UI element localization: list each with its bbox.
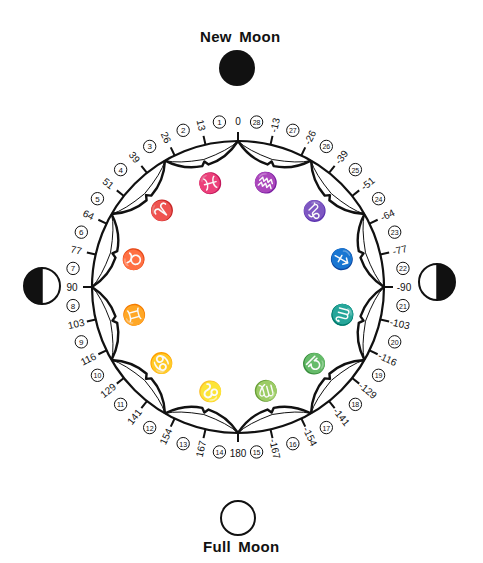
day-number: 15 bbox=[253, 449, 261, 456]
day-number: 11 bbox=[117, 401, 124, 408]
degree-label: -64 bbox=[379, 207, 397, 223]
lunar-day-marker: 19 bbox=[372, 369, 384, 381]
day-number: 4 bbox=[118, 166, 123, 175]
tick-mark bbox=[141, 166, 147, 173]
lunar-day-marker: 7 bbox=[67, 262, 79, 274]
lunar-day-marker: 9 bbox=[75, 336, 87, 348]
day-number: 1 bbox=[217, 118, 222, 127]
zodiac-libra-icon: ♎ bbox=[297, 346, 332, 381]
zodiac-ring bbox=[92, 141, 384, 433]
degree-label: -141 bbox=[331, 406, 352, 429]
lunar-day-marker: 28 bbox=[250, 116, 262, 128]
day-number: 18 bbox=[351, 401, 359, 408]
lunar-day-marker: 3 bbox=[143, 140, 155, 152]
tick-mark bbox=[117, 378, 124, 384]
zodiac-leo-icon: ♌ bbox=[195, 376, 225, 406]
zodiac-cancer-icon: ♋ bbox=[144, 346, 179, 381]
zodiac-sagittarius-icon: ♐ bbox=[327, 244, 357, 274]
day-number: 9 bbox=[79, 338, 84, 347]
tick-mark bbox=[329, 166, 335, 173]
tick-mark bbox=[98, 350, 106, 354]
lunar-day-marker: 23 bbox=[388, 226, 400, 238]
lunar-day-marker: 5 bbox=[91, 192, 103, 204]
lunar-day-marker: 1 bbox=[213, 116, 225, 128]
degree-label: -90 bbox=[397, 282, 412, 293]
day-number: 2 bbox=[181, 126, 186, 135]
zodiac-arc-inner bbox=[165, 412, 238, 433]
day-number: 25 bbox=[351, 167, 359, 174]
degree-label: 13 bbox=[194, 119, 207, 133]
zodiac-arc-inner bbox=[165, 141, 238, 162]
day-number: 19 bbox=[375, 372, 383, 379]
lunar-day-marker: 4 bbox=[114, 163, 126, 175]
day-number: 6 bbox=[79, 228, 84, 237]
degree-label: 26 bbox=[159, 130, 174, 145]
day-number: 10 bbox=[94, 372, 102, 379]
zodiac-virgo-icon: ♍ bbox=[251, 376, 281, 406]
degree-label: 154 bbox=[157, 426, 174, 446]
degree-label: -129 bbox=[357, 380, 380, 401]
lunar-day-marker: 8 bbox=[67, 299, 79, 311]
degree-label: 77 bbox=[70, 243, 84, 256]
zodiac-taurus-icon: ♉ bbox=[119, 244, 149, 274]
lunar-day-marker: 27 bbox=[287, 124, 299, 136]
degree-label: -77 bbox=[392, 243, 409, 257]
day-number: 28 bbox=[253, 119, 261, 126]
lunar-day-marker: 22 bbox=[397, 262, 409, 274]
tick-mark bbox=[380, 319, 389, 321]
lunar-day-markers: 1234567891011121314151617181920212223242… bbox=[67, 116, 409, 458]
new-moon-label: New Moon bbox=[200, 28, 280, 45]
lunar-day-marker: 11 bbox=[114, 398, 126, 410]
moon-full-icon bbox=[221, 501, 255, 535]
tick-mark bbox=[87, 319, 96, 321]
lunar-day-marker: 2 bbox=[177, 124, 189, 136]
zodiac-arc-inner bbox=[363, 214, 384, 287]
degree-label: -154 bbox=[301, 425, 320, 448]
day-number: 22 bbox=[399, 265, 407, 272]
tick-mark bbox=[204, 136, 206, 145]
zodiac-scorpio-icon: ♏ bbox=[327, 300, 357, 330]
tick-mark bbox=[98, 220, 106, 224]
full-moon-label: Full Moon bbox=[203, 538, 280, 555]
tick-mark bbox=[301, 147, 305, 155]
zodiac-capricorn-icon: ♑ bbox=[297, 193, 332, 228]
tick-mark bbox=[370, 350, 378, 354]
day-number: 3 bbox=[147, 142, 152, 151]
lunar-day-marker: 14 bbox=[213, 446, 225, 458]
lunar-day-marker: 10 bbox=[91, 369, 103, 381]
tick-mark bbox=[117, 190, 124, 196]
degree-label: -103 bbox=[389, 316, 411, 331]
zodiac-arc-inner bbox=[238, 141, 311, 162]
day-number: 16 bbox=[289, 441, 297, 448]
degree-label: 39 bbox=[127, 149, 143, 165]
tick-mark bbox=[301, 419, 305, 427]
lunar-day-marker: 15 bbox=[250, 446, 262, 458]
degree-label: 141 bbox=[125, 406, 144, 426]
zodiac-arc-inner bbox=[92, 287, 113, 360]
degree-label: 103 bbox=[67, 317, 86, 332]
degree-label: 64 bbox=[81, 208, 96, 223]
degree-label: 129 bbox=[98, 381, 118, 400]
day-number: 24 bbox=[375, 196, 383, 203]
tick-mark bbox=[141, 401, 147, 408]
lunar-day-marker: 6 bbox=[75, 226, 87, 238]
lunar-day-marker: 18 bbox=[349, 398, 361, 410]
zodiac-arc-inner bbox=[238, 412, 311, 433]
lunar-day-marker: 17 bbox=[320, 421, 332, 433]
day-number: 23 bbox=[391, 229, 399, 236]
day-number: 12 bbox=[146, 425, 154, 432]
tick-mark bbox=[329, 401, 335, 408]
tick-mark bbox=[370, 220, 378, 224]
lunar-day-marker: 13 bbox=[177, 437, 189, 449]
moon-last-quarter-right-icon bbox=[419, 264, 455, 300]
zodiac-pisces-icon: ♓ bbox=[195, 168, 225, 198]
zodiac-aries-icon: ♈ bbox=[144, 193, 179, 228]
tick-mark bbox=[352, 378, 359, 384]
degree-label: 51 bbox=[100, 176, 116, 192]
day-number: 17 bbox=[322, 425, 330, 432]
tick-mark bbox=[171, 147, 175, 155]
degree-label: 0 bbox=[235, 116, 241, 127]
degree-label: 180 bbox=[230, 448, 247, 459]
day-number: 5 bbox=[95, 195, 100, 204]
day-number: 20 bbox=[391, 339, 399, 346]
